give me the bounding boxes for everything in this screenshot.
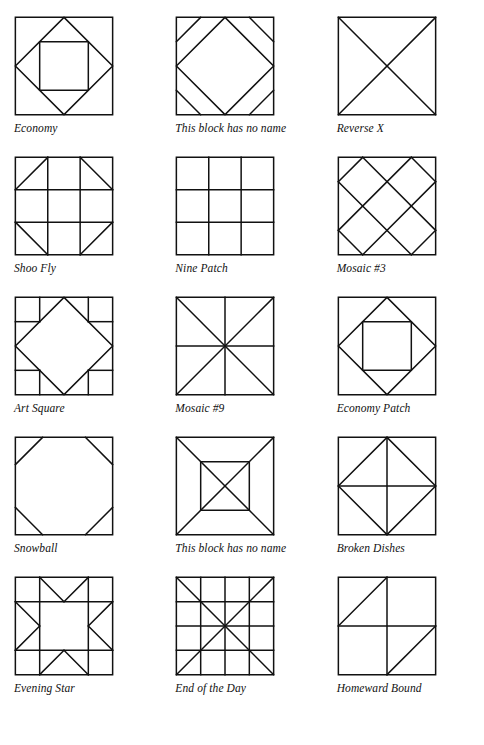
block-cell: Evening Star	[14, 576, 147, 716]
quilt-block-diagram	[337, 576, 437, 676]
block-rect	[177, 157, 274, 254]
block-line	[15, 222, 47, 254]
quilt-block-diagram	[175, 436, 275, 536]
block-cell: Mosaic #3	[337, 156, 470, 296]
quilt-block-svg	[337, 156, 437, 256]
block-line	[85, 507, 112, 534]
block-rect	[15, 437, 112, 534]
block-line	[387, 626, 436, 675]
block-rect	[15, 17, 112, 114]
block-caption: Economy	[14, 122, 126, 136]
block-rect	[338, 297, 435, 394]
block-grid: EconomyThis block has no nameReverse XSh…	[14, 16, 470, 716]
block-caption: This block has no name	[175, 122, 287, 136]
block-caption: This block has no name	[175, 542, 287, 556]
block-line	[338, 157, 362, 181]
quilt-block-svg	[175, 436, 275, 536]
block-line	[80, 157, 112, 189]
block-line	[177, 17, 201, 41]
block-cell: Mosaic #9	[175, 296, 308, 436]
block-caption: Shoo Fly	[14, 262, 126, 276]
block-line	[15, 437, 42, 464]
quilt-block-diagram	[14, 436, 114, 536]
block-caption: Homeward Bound	[337, 682, 449, 696]
quilt-block-svg	[175, 16, 275, 116]
block-line	[338, 182, 411, 255]
block-line	[64, 650, 88, 674]
block-line	[88, 626, 112, 650]
block-polygon	[338, 297, 435, 394]
block-cell: Snowball	[14, 436, 147, 576]
block-rect	[40, 42, 89, 91]
block-cell: This block has no name	[175, 436, 308, 576]
quilt-block-svg	[14, 576, 114, 676]
quilt-block-svg	[175, 576, 275, 676]
quilt-block-svg	[14, 436, 114, 536]
quilt-block-diagram	[337, 296, 437, 396]
block-line	[64, 577, 88, 601]
block-line	[411, 230, 435, 254]
block-caption: Mosaic #3	[337, 262, 449, 276]
block-caption: Snowball	[14, 542, 126, 556]
block-line	[411, 157, 435, 181]
quilt-block-svg	[14, 156, 114, 256]
quilt-block-svg	[337, 16, 437, 116]
block-rect	[15, 297, 112, 394]
quilt-block-diagram	[175, 156, 275, 256]
block-cell: Art Square	[14, 296, 147, 436]
block-line	[338, 230, 362, 254]
block-polygon	[177, 17, 274, 114]
quilt-block-diagram	[175, 16, 275, 116]
quilt-block-svg	[14, 16, 114, 116]
quilt-block-diagram	[14, 296, 114, 396]
quilt-block-svg	[337, 576, 437, 676]
block-line	[362, 182, 435, 255]
block-line	[362, 157, 435, 230]
block-caption: Nine Patch	[175, 262, 287, 276]
block-line	[15, 507, 42, 534]
block-cell: Shoo Fly	[14, 156, 147, 296]
block-line	[250, 90, 274, 114]
block-polygon	[15, 17, 112, 114]
block-line	[15, 602, 39, 626]
block-caption: End of the Day	[175, 682, 287, 696]
block-rect	[362, 322, 411, 371]
block-cell: This block has no name	[175, 16, 308, 156]
quilt-block-diagram	[14, 576, 114, 676]
block-caption: Mosaic #9	[175, 402, 287, 416]
block-line	[85, 437, 112, 464]
block-cell: Economy Patch	[337, 296, 470, 436]
quilt-block-diagram	[175, 296, 275, 396]
block-line	[88, 602, 112, 626]
block-line	[15, 626, 39, 650]
block-line	[177, 90, 201, 114]
block-rect	[177, 17, 274, 114]
quilt-block-svg	[175, 296, 275, 396]
block-cell: Nine Patch	[175, 156, 308, 296]
quilt-block-svg	[337, 436, 437, 536]
block-caption: Broken Dishes	[337, 542, 449, 556]
block-caption: Reverse X	[337, 122, 449, 136]
block-cell: Reverse X	[337, 16, 470, 156]
block-line	[40, 650, 64, 674]
quilt-block-diagram	[14, 16, 114, 116]
block-cell: Economy	[14, 16, 147, 156]
block-cell: Homeward Bound	[337, 576, 470, 716]
block-caption: Art Square	[14, 402, 126, 416]
block-polygon	[15, 297, 112, 394]
quilt-block-diagram	[175, 576, 275, 676]
block-line	[250, 17, 274, 41]
quilt-block-svg	[337, 296, 437, 396]
quilt-block-svg	[175, 156, 275, 256]
block-rect	[338, 157, 435, 254]
block-line	[80, 222, 112, 254]
quilt-block-diagram	[14, 156, 114, 256]
quilt-block-diagram	[337, 436, 437, 536]
block-line	[15, 157, 47, 189]
block-caption: Economy Patch	[337, 402, 449, 416]
quilt-block-diagram	[337, 16, 437, 116]
block-rect	[15, 577, 112, 674]
block-line	[338, 577, 387, 626]
block-line	[338, 157, 411, 230]
block-line	[40, 577, 64, 601]
